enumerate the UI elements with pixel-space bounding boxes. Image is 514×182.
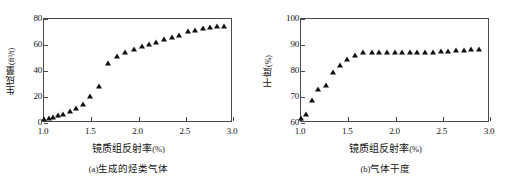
chart-panel-a: 生成量(ft³/t) 020406080 镜质组反射率(%) (a)生成的烃类气… (0, 0, 257, 182)
y-tick-label: 60 (20, 39, 42, 49)
x-tick-mark (396, 117, 397, 121)
x-axis-label-b: 镜质组反射率(%) (257, 140, 514, 155)
y-tick-mark (301, 45, 305, 46)
x-tick-label: 1.5 (334, 126, 360, 136)
data-point-marker (105, 61, 111, 66)
data-point-marker (360, 50, 366, 55)
data-point-marker (67, 108, 73, 113)
data-point-marker (384, 50, 390, 55)
y-tick-mark (44, 19, 48, 20)
data-point-marker (73, 106, 79, 111)
y-tick-label: 20 (20, 91, 42, 101)
x-tick-label: 1.0 (30, 126, 56, 136)
y-tick-mark (44, 123, 48, 124)
x-tick-label: 3.0 (476, 126, 502, 136)
data-point-marker (309, 98, 315, 103)
x-tick-mark (490, 117, 491, 121)
y-tick-mark (301, 19, 305, 20)
caption-text-b: 气体干度 (370, 164, 410, 174)
data-point-marker (176, 32, 182, 37)
data-point-marker (476, 47, 482, 52)
x-axis-label-text-a: 镜质组反射率 (92, 143, 152, 154)
caption-b: (b)气体干度 (257, 161, 514, 175)
y-tick-label: 80 (20, 13, 42, 23)
data-point-marker (131, 46, 137, 51)
data-point-marker (114, 54, 120, 59)
data-point-marker (445, 48, 451, 53)
data-point-marker (146, 41, 152, 46)
data-point-marker (392, 50, 398, 55)
x-tick-label: 3.0 (219, 126, 245, 136)
y-tick-mark (301, 123, 305, 124)
data-point-marker (200, 26, 206, 31)
data-point-marker (430, 49, 436, 54)
caption-text-a: 生成的烃类气体 (98, 164, 168, 174)
data-point-marker (303, 111, 309, 116)
data-point-marker (207, 25, 213, 30)
y-tick-mark (301, 97, 305, 98)
data-point-marker (323, 83, 329, 88)
data-point-marker (414, 50, 420, 55)
y-tick-label: 80 (277, 65, 299, 75)
chart-panel-b: 干度(%) 60708090100 镜质组反射率(%) (b)气体干度 1.01… (257, 0, 514, 182)
data-point-marker (422, 49, 428, 54)
data-point-marker (96, 83, 102, 88)
data-point-marker (139, 43, 145, 48)
data-point-marker (221, 23, 227, 28)
data-point-marker (315, 87, 321, 92)
data-point-marker (122, 50, 128, 55)
plot-area-b (300, 18, 489, 122)
x-tick-label: 1.5 (77, 126, 103, 136)
data-point-marker (169, 34, 175, 39)
data-point-marker (468, 47, 474, 52)
data-point-marker (60, 111, 66, 116)
y-tick-mark (44, 71, 48, 72)
y-tick-label: 40 (20, 65, 42, 75)
data-point-marker (214, 24, 220, 29)
data-point-marker (369, 49, 375, 54)
figure-container: 生成量(ft³/t) 020406080 镜质组反射率(%) (a)生成的烃类气… (0, 0, 514, 182)
data-point-marker (330, 69, 336, 74)
y-tick-label: 90 (277, 39, 299, 49)
data-point-marker (87, 93, 93, 98)
caption-tag-a: (a) (89, 164, 98, 174)
data-point-marker (438, 49, 444, 54)
data-point-marker (399, 50, 405, 55)
x-tick-mark (91, 117, 92, 121)
data-point-marker (80, 102, 86, 107)
caption-a: (a)生成的烃类气体 (0, 161, 257, 175)
caption-tag-b: (b) (361, 164, 371, 174)
y-axis-label-unit-b: (%) (264, 55, 273, 67)
x-tick-label: 2.5 (429, 126, 455, 136)
y-tick-label: 100 (277, 13, 299, 23)
data-point-marker (153, 39, 159, 44)
x-axis-label-text-b: 镜质组反射率 (349, 143, 409, 154)
y-tick-mark (44, 97, 48, 98)
x-axis-label-unit-b: (%) (409, 144, 422, 154)
x-tick-label: 1.0 (287, 126, 313, 136)
x-tick-mark (443, 117, 444, 121)
x-tick-label: 2.0 (382, 126, 408, 136)
data-point-marker (453, 48, 459, 53)
x-tick-label: 2.5 (172, 126, 198, 136)
y-tick-mark (301, 71, 305, 72)
data-point-marker (376, 49, 382, 54)
y-tick-mark (44, 45, 48, 46)
plot-area-a (43, 18, 232, 122)
data-point-marker (344, 57, 350, 62)
x-tick-label: 2.0 (125, 126, 151, 136)
x-tick-mark (233, 117, 234, 121)
y-tick-label: 70 (277, 91, 299, 101)
x-axis-label-unit-a: (%) (152, 144, 165, 154)
data-point-marker (161, 37, 167, 42)
data-point-marker (352, 52, 358, 57)
x-tick-mark (348, 117, 349, 121)
y-axis-label-unit-a: (ft³/t) (7, 47, 16, 64)
data-point-marker (185, 29, 191, 34)
x-axis-label-a: 镜质组反射率(%) (0, 140, 257, 155)
data-point-marker (407, 50, 413, 55)
data-point-marker (461, 47, 467, 52)
x-tick-mark (186, 117, 187, 121)
data-point-marker (337, 62, 343, 67)
data-point-marker (192, 28, 198, 33)
